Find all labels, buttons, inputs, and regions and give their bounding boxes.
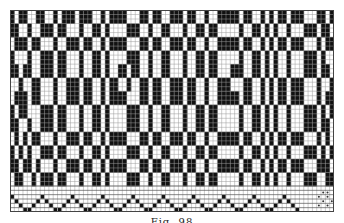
- weaving-draft-grid: [10, 10, 334, 212]
- figure-caption: Fig. 98: [0, 216, 344, 223]
